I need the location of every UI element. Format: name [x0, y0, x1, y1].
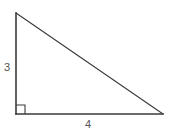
- right-triangle-figure: 3 4: [0, 0, 188, 134]
- side-label-horizontal-leg: 4: [85, 119, 91, 130]
- triangle-drawing: [0, 0, 188, 134]
- side-label-vertical-leg: 3: [4, 62, 10, 73]
- triangle-side-hypotenuse: [16, 13, 163, 114]
- right-angle-square-icon: [16, 105, 25, 114]
